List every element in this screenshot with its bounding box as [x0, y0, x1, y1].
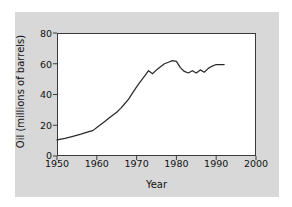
axis-ticks: [53, 33, 256, 160]
figure-container: 80 60 40 20 0 1950 1960 1970 1980 1990 2…: [0, 0, 292, 207]
data-series-line: [57, 61, 224, 140]
chart-svg: [0, 0, 292, 207]
